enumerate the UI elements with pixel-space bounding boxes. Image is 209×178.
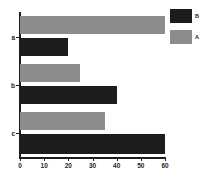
x-axis-label-20: 20 — [60, 162, 76, 170]
legend-label-a: A — [195, 34, 199, 40]
legend: B A — [170, 9, 209, 51]
y-tick-a — [16, 37, 20, 38]
x-axis-label-60: 60 — [157, 162, 173, 170]
x-axis-label-50: 50 — [133, 162, 149, 170]
legend-item-b[interactable]: B — [170, 9, 209, 23]
x-axis-label-0: 0 — [12, 162, 28, 170]
plot-area — [20, 12, 165, 158]
bar-c-series-B — [20, 134, 165, 154]
legend-swatch-a-icon — [170, 30, 192, 44]
y-tick-b — [16, 85, 20, 86]
bar-a-series-A — [20, 16, 165, 34]
x-tick-30 — [93, 157, 94, 161]
x-axis-label-30: 30 — [85, 162, 101, 170]
bar-b-series-A — [20, 64, 80, 82]
x-tick-40 — [117, 157, 118, 161]
legend-label-b: B — [195, 13, 199, 19]
y-axis-label-b: b — [2, 82, 15, 89]
x-tick-20 — [68, 157, 69, 161]
x-axis-label-40: 40 — [109, 162, 125, 170]
x-tick-50 — [141, 157, 142, 161]
bar-c-series-A — [20, 112, 105, 130]
x-tick-60 — [165, 157, 166, 161]
bar-a-series-B — [20, 38, 68, 56]
x-axis-label-10: 10 — [36, 162, 52, 170]
bar-chart: a b c 0 10 20 30 40 50 60 B A — [0, 0, 209, 178]
x-tick-10 — [44, 157, 45, 161]
legend-item-a[interactable]: A — [170, 30, 209, 44]
y-tick-c — [16, 133, 20, 134]
bar-b-series-B — [20, 86, 117, 104]
x-tick-0 — [20, 157, 21, 161]
legend-swatch-b-icon — [170, 9, 192, 23]
y-axis-label-a: a — [2, 34, 15, 41]
y-axis-label-c: c — [2, 130, 15, 137]
